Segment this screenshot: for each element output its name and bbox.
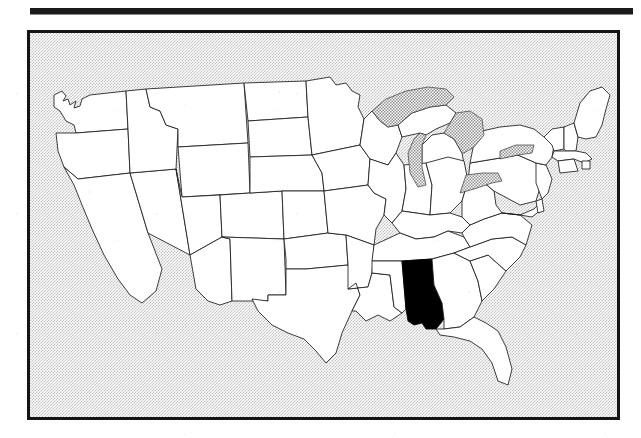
state-north-dakota[interactable] bbox=[244, 81, 308, 121]
us-map[interactable] bbox=[30, 33, 617, 417]
state-new-mexico[interactable] bbox=[222, 237, 286, 301]
state-oklahoma[interactable] bbox=[284, 233, 348, 269]
state-kansas[interactable] bbox=[282, 191, 328, 239]
figure-root: United States locator map bbox=[0, 0, 641, 438]
state-nebraska[interactable] bbox=[250, 155, 324, 193]
state-connecticut[interactable] bbox=[558, 159, 578, 173]
map-frame bbox=[27, 30, 620, 420]
state-washington[interactable] bbox=[54, 91, 128, 133]
state-colorado[interactable] bbox=[220, 191, 284, 239]
states-layer bbox=[54, 77, 610, 385]
state-maine[interactable] bbox=[574, 87, 610, 139]
state-rhode-island[interactable] bbox=[582, 161, 590, 169]
state-wyoming[interactable] bbox=[178, 143, 250, 197]
state-south-dakota[interactable] bbox=[248, 117, 312, 157]
state-minnesota[interactable] bbox=[306, 77, 364, 155]
top-horizontal-rule bbox=[30, 8, 633, 14]
